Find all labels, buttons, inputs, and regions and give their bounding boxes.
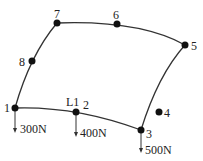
node-label-2: 2 — [83, 98, 89, 112]
node-label-3: 3 — [146, 127, 152, 141]
node-1 — [12, 105, 19, 112]
load-arrow-node-1 — [13, 108, 17, 133]
node-label-1: 1 — [4, 101, 10, 115]
load-label-node-3: 500N — [145, 143, 172, 157]
element-diagram: 1 2 3 4 5 6 7 8 L1 300N 400N 500N — [0, 0, 203, 161]
node-label-5: 5 — [191, 39, 197, 53]
edge-label-l1: L1 — [66, 95, 79, 109]
load-label-node-2: 400N — [80, 126, 107, 140]
load-arrow-node-2 — [74, 112, 78, 137]
node-5 — [182, 42, 189, 49]
node-2 — [73, 109, 80, 116]
node-label-4: 4 — [164, 106, 170, 120]
node-label-7: 7 — [54, 7, 60, 21]
edge-3-4-5 — [141, 45, 185, 130]
node-8 — [29, 58, 36, 65]
node-3 — [138, 127, 145, 134]
load-label-node-1: 300N — [20, 122, 47, 136]
node-label-8: 8 — [19, 55, 25, 69]
edge-5-6-7 — [57, 23, 185, 45]
node-4 — [156, 109, 163, 116]
node-label-6: 6 — [113, 8, 119, 22]
